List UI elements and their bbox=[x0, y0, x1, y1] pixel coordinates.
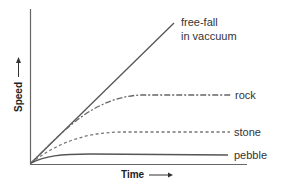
freefall-label-line2: in vaccuum bbox=[181, 30, 237, 42]
freefall-label-line1: free-fall bbox=[181, 16, 218, 28]
stone-label: stone bbox=[234, 126, 261, 138]
rock-label: rock bbox=[235, 89, 256, 101]
y-arrowhead-icon bbox=[16, 57, 21, 63]
y-axis-label: Speed bbox=[13, 82, 24, 112]
x-axis-label: Time bbox=[121, 169, 145, 180]
stone-curve bbox=[31, 132, 230, 163]
pebble-label: pebble bbox=[234, 149, 267, 161]
speed-time-diagram: free-fall in vaccuum rock stone pebble T… bbox=[0, 0, 282, 189]
rock-curve bbox=[31, 95, 232, 163]
pebble-curve bbox=[31, 154, 228, 163]
freefall-line bbox=[31, 23, 174, 163]
x-arrowhead-icon bbox=[168, 173, 173, 178]
